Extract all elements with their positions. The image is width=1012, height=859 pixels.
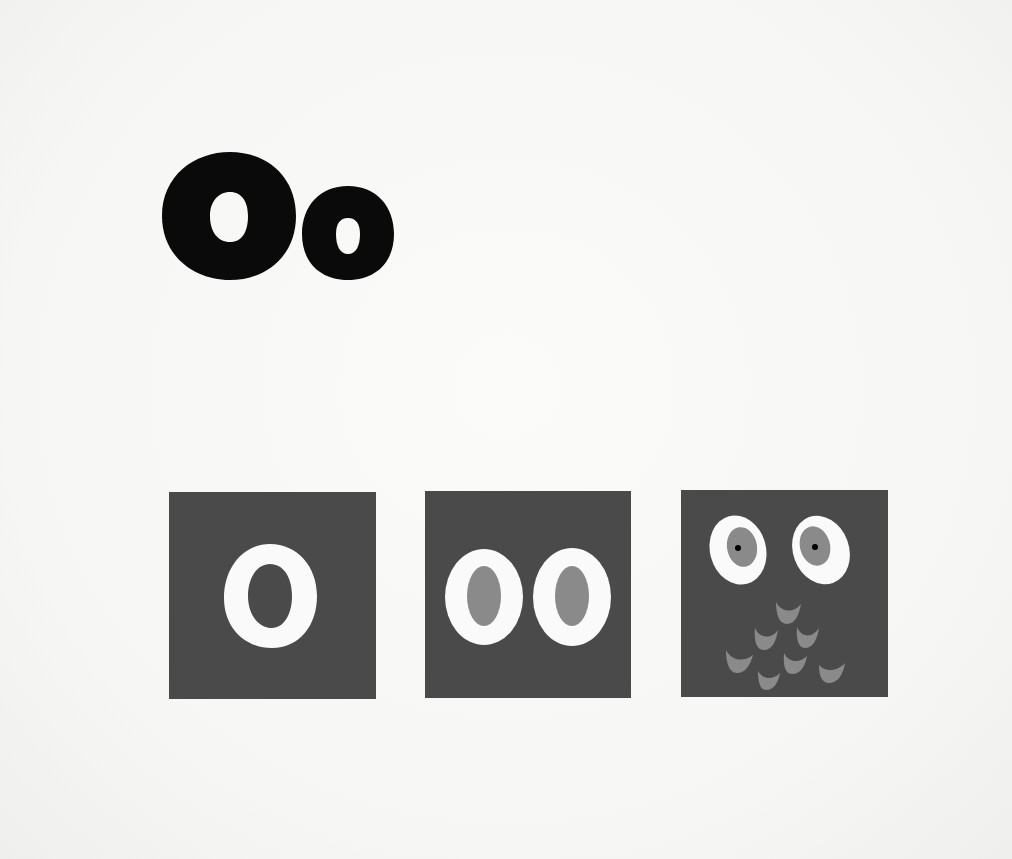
- feather: [797, 627, 819, 648]
- owl-illustration: [681, 490, 888, 697]
- lowercase-o-glyph: [302, 186, 394, 280]
- flashcard-page: Oo: [0, 0, 1012, 859]
- two-eyes-card: [425, 491, 631, 698]
- feather: [726, 650, 753, 673]
- feather: [784, 653, 807, 674]
- feather: [819, 663, 845, 683]
- owl-left-eye: [702, 509, 774, 591]
- letter-o-glyphs: [158, 148, 398, 288]
- owl-right-eye: [783, 508, 860, 593]
- feather: [755, 628, 778, 650]
- letter-heading: Oo: [158, 148, 398, 288]
- right-eye-pupil: [555, 566, 589, 626]
- owl-feathers: [726, 602, 845, 690]
- owl-card: [681, 490, 888, 697]
- feather: [758, 671, 780, 690]
- left-eye-pupil: [467, 566, 501, 626]
- white-o-ring: [224, 544, 317, 648]
- letter-o-illustration: [169, 492, 376, 699]
- uppercase-o-glyph: [162, 152, 296, 280]
- two-eyes-illustration: [425, 491, 631, 698]
- letter-o-card: [169, 492, 376, 699]
- feather: [776, 602, 801, 624]
